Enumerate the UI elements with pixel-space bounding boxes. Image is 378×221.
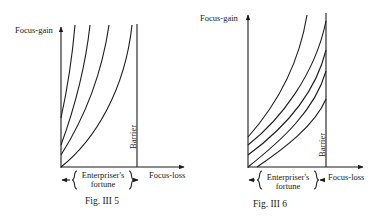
left-brace-icon (257, 171, 262, 189)
barrier-label: Barrier (317, 133, 327, 157)
curve-3 (61, 25, 109, 155)
left-brace-icon (72, 171, 77, 189)
bracket-label-line2: fortune (91, 179, 116, 189)
curve-4 (61, 25, 132, 167)
enterprisers-fortune-bracket: Enterpriser's fortune (62, 170, 138, 189)
curve-3 (248, 50, 326, 155)
right-brace-icon (129, 171, 134, 189)
x-axis-label: Focus-loss (149, 170, 185, 180)
figure-5: Focus-gain Focus-loss Barrier Enterprise… (15, 24, 185, 206)
x-axis-label: Focus-loss (328, 172, 364, 182)
curve-2 (61, 25, 90, 145)
curve-5 (257, 99, 326, 167)
curve-1 (248, 15, 307, 137)
diagram-canvas: Focus-gain Focus-loss Barrier Enterprise… (0, 0, 378, 221)
curve-2 (248, 21, 326, 145)
enterprisers-fortune-bracket: Enterpriser's fortune (249, 171, 325, 191)
bracket-label-line2: fortune (276, 181, 301, 191)
figure-caption: Fig. III 5 (85, 196, 119, 206)
y-axis-label: Focus-gain (200, 13, 239, 23)
y-axis-label: Focus-gain (15, 25, 54, 35)
barrier-label: Barrier (128, 125, 138, 149)
curve-1 (61, 25, 75, 118)
figure-6: Focus-gain Focus-loss Barrier Enterprise… (200, 13, 364, 209)
right-brace-icon (314, 171, 319, 189)
figure-caption: Fig. III 6 (253, 199, 287, 209)
